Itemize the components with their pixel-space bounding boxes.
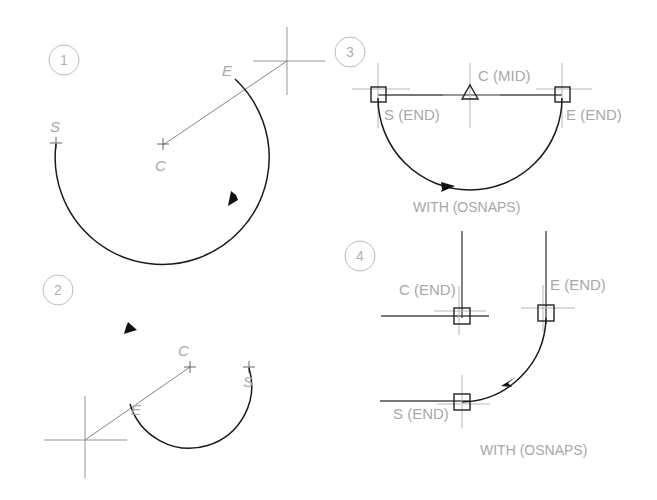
arc-geometry: [130, 368, 252, 448]
label-end-point: E: [222, 62, 233, 79]
label-start-point: S (END): [384, 106, 440, 123]
panel-4-number-badge: 4: [345, 241, 375, 271]
arc-direction-arrowhead: [124, 322, 137, 334]
panel-number-label: 3: [346, 44, 354, 60]
label-end-point: E (END): [566, 106, 622, 123]
arc-direction-arrowhead: [501, 377, 516, 387]
panel-4: 4: [345, 231, 606, 458]
panel-number-label: 1: [60, 52, 68, 68]
arc-geometry: [462, 318, 546, 402]
arc-direction-arrowhead: [228, 191, 238, 206]
panel-3-number-badge: 3: [335, 37, 365, 67]
panel-caption: WITH (OSNAPS): [413, 199, 520, 215]
panel-caption: WITH (OSNAPS): [480, 442, 587, 458]
label-start-point: S: [243, 373, 253, 390]
panel-1: 1 S C: [49, 27, 325, 264]
panel-number-label: 2: [54, 282, 62, 298]
label-center-point: C (MID): [478, 67, 531, 84]
panel-3: 3: [335, 37, 622, 215]
label-end-point: E (END): [550, 276, 606, 293]
label-center-point: C: [155, 157, 166, 174]
center-point-marker: [157, 138, 169, 150]
start-point-marker: [243, 361, 255, 373]
panel-1-number-badge: 1: [49, 45, 79, 75]
drawing-sheet: 1 S C: [0, 0, 657, 500]
panel-number-label: 4: [356, 248, 364, 264]
arc-direction-arrowhead: [441, 182, 455, 192]
label-start-point: S (END): [393, 405, 449, 422]
label-center-point: C (END): [399, 281, 456, 298]
label-center-point: C: [178, 342, 189, 359]
crosshair-cursor-icon: [44, 396, 127, 478]
panel-2-number-badge: 2: [43, 275, 73, 305]
label-start-point: S: [50, 118, 60, 135]
label-end-point: E: [131, 401, 142, 418]
panel-2: 2 S C: [43, 275, 255, 478]
center-point-marker: [184, 361, 196, 373]
crosshair-cursor-icon: [253, 27, 325, 95]
